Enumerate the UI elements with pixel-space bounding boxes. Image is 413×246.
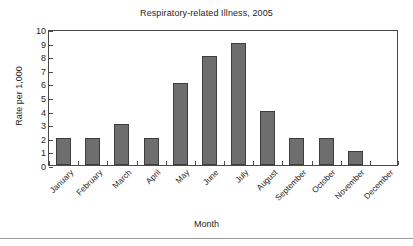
x-tick-label-november: November bbox=[334, 168, 367, 201]
bar-september[interactable] bbox=[289, 138, 304, 165]
x-tick-label-august: August bbox=[255, 168, 279, 192]
y-tick-label: 4 bbox=[41, 108, 46, 117]
bars-layer bbox=[49, 31, 397, 165]
x-tick-mark bbox=[398, 161, 399, 165]
bar-february[interactable] bbox=[85, 138, 100, 165]
x-tick-label-may: May bbox=[174, 168, 191, 185]
x-tick-label-april: April bbox=[144, 168, 162, 186]
bar-january[interactable] bbox=[56, 138, 71, 165]
y-tick-label: 9 bbox=[41, 40, 46, 49]
x-axis-title: Month bbox=[0, 219, 413, 229]
bottom-divider bbox=[0, 238, 413, 239]
y-tick-label: 1 bbox=[41, 149, 46, 158]
y-axis-title: Rate per 1,000 bbox=[14, 36, 24, 156]
x-tick-label-october: October bbox=[310, 168, 337, 195]
y-tick-label: 3 bbox=[41, 122, 46, 131]
chart-figure: Respiratory-related Illness, 2005 Rate p… bbox=[0, 0, 413, 246]
y-tick-label: 0 bbox=[41, 163, 46, 172]
y-tick-label: 6 bbox=[41, 81, 46, 90]
x-axis-tick-labels: JanuaryFebruaryMarchAprilMayJuneJulyAugu… bbox=[48, 166, 398, 218]
bar-july[interactable] bbox=[231, 43, 246, 165]
bar-april[interactable] bbox=[144, 138, 159, 165]
x-tick-label-december: December bbox=[363, 168, 396, 201]
y-tick-label: 10 bbox=[36, 27, 46, 36]
bar-march[interactable] bbox=[114, 124, 129, 165]
y-tick-label: 2 bbox=[41, 135, 46, 144]
bar-may[interactable] bbox=[173, 83, 188, 165]
y-tick-label: 7 bbox=[41, 67, 46, 76]
chart-title: Respiratory-related Illness, 2005 bbox=[0, 8, 413, 18]
y-tick-label: 5 bbox=[41, 95, 46, 104]
x-tick-label-march: March bbox=[111, 168, 133, 190]
bar-november[interactable] bbox=[348, 151, 363, 165]
plot-area: 012345678910 bbox=[48, 30, 398, 166]
x-tick-label-january: January bbox=[48, 168, 75, 195]
bar-august[interactable] bbox=[260, 111, 275, 165]
y-tick-label: 8 bbox=[41, 54, 46, 63]
x-tick-label-july: July bbox=[233, 168, 250, 185]
bar-june[interactable] bbox=[202, 56, 217, 165]
x-tick-label-february: February bbox=[75, 168, 105, 198]
x-tick-label-june: June bbox=[202, 168, 221, 187]
bar-october[interactable] bbox=[319, 138, 334, 165]
